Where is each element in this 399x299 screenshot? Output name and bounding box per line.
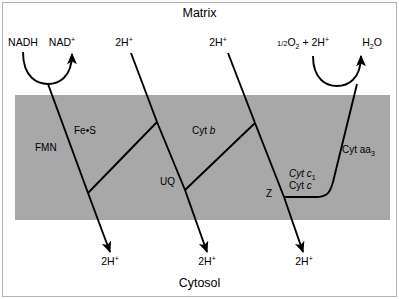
proton-label-bottom-2: 2H+ — [198, 255, 216, 267]
proton-label-bottom-1: 2H+ — [101, 255, 119, 267]
water-label: H2O — [362, 36, 382, 50]
carrier-label-cyt-b: Cyt b — [192, 125, 216, 136]
oxygen-substrate-label: 1/2O2 + 2H+ — [277, 36, 329, 50]
proton-label-bottom-3: 2H+ — [295, 255, 313, 267]
carrier-label-z: Z — [266, 188, 272, 199]
nad-plus-label: NAD+ — [49, 36, 75, 48]
etc-diagram: Matrix Cytosol NADH NAD+ 2H+ 2H+ 1/2O2 +… — [0, 0, 399, 299]
carrier-label-cyt-c: Cyt c — [289, 180, 312, 191]
carrier-label-uq: UQ — [160, 176, 175, 187]
nadh-label: NADH — [8, 36, 38, 48]
inner-mitochondrial-membrane — [15, 95, 390, 220]
matrix-label: Matrix — [182, 6, 217, 20]
cytosol-label: Cytosol — [179, 276, 221, 290]
oxygen-to-water-arc — [313, 56, 361, 86]
nadh-to-nad-arc — [23, 52, 72, 84]
carrier-label-fmn: FMN — [35, 142, 57, 153]
proton-label-top-2: 2H+ — [209, 36, 227, 48]
carrier-label-fe-s: Fe•S — [74, 125, 96, 136]
proton-label-top-1: 2H+ — [115, 36, 133, 48]
etc-diagram-canvas: Matrix Cytosol NADH NAD+ 2H+ 2H+ 1/2O2 +… — [0, 0, 399, 299]
